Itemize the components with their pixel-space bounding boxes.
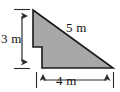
- base-label: 4 m: [56, 74, 76, 87]
- geometry-figure: 3 m 5 m 4 m: [0, 0, 120, 92]
- stepped-triangle-shape: [33, 10, 113, 68]
- hypotenuse-label: 5 m: [66, 21, 86, 34]
- height-label: 3 m: [1, 32, 21, 45]
